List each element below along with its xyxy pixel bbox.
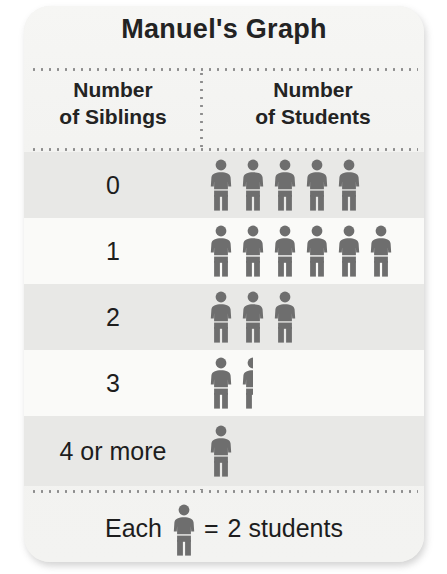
row-label-siblings: 4 or more	[28, 416, 198, 486]
person-icon	[272, 291, 298, 343]
row-symbols	[208, 416, 234, 486]
person-icon	[208, 225, 234, 277]
person-icon	[304, 225, 330, 277]
person-icon	[336, 225, 362, 277]
person-icon	[208, 425, 234, 477]
pictograph-card: Manuel's Graph Number of Siblings Number…	[24, 6, 424, 562]
person-icon	[240, 225, 266, 277]
table-row: 3	[24, 350, 424, 416]
row-label-siblings: 3	[28, 350, 198, 416]
row-label-siblings: 2	[28, 284, 198, 350]
table-row: 1	[24, 218, 424, 284]
column-header-siblings: Number of Siblings	[28, 76, 198, 131]
person-icon	[208, 159, 234, 211]
row-symbols	[208, 284, 298, 350]
person-half-icon	[240, 357, 253, 409]
column-header-students-line2: of Students	[206, 103, 420, 130]
table-row: 0	[24, 152, 424, 218]
divider-above-legend	[30, 490, 418, 493]
row-symbols	[208, 350, 253, 416]
legend-person-icon	[171, 504, 195, 552]
pictograph-rows: 01234 or more	[24, 152, 424, 490]
person-icon	[240, 159, 266, 211]
column-header-students-line1: Number	[206, 76, 420, 103]
person-icon	[336, 159, 362, 211]
legend: Each = 2 students	[24, 496, 424, 560]
person-icon	[272, 225, 298, 277]
person-icon	[240, 291, 266, 343]
row-symbols	[208, 218, 394, 284]
divider-below-headers	[30, 148, 418, 151]
column-header-students: Number of Students	[206, 76, 420, 131]
person-icon	[304, 159, 330, 211]
page-title: Manuel's Graph	[24, 14, 424, 45]
row-label-siblings: 1	[28, 218, 198, 284]
column-header-siblings-line1: Number	[28, 76, 198, 103]
row-label-siblings: 0	[28, 152, 198, 218]
person-icon	[208, 357, 234, 409]
legend-equals: =	[204, 514, 219, 543]
divider-below-title	[30, 68, 418, 71]
table-row: 4 or more	[24, 416, 424, 486]
person-icon	[368, 225, 394, 277]
legend-suffix: 2 students	[228, 514, 343, 543]
row-symbols	[208, 152, 362, 218]
person-icon	[272, 159, 298, 211]
column-header-siblings-line2: of Siblings	[28, 103, 198, 130]
legend-prefix: Each	[105, 514, 162, 543]
person-icon	[208, 291, 234, 343]
table-row: 2	[24, 284, 424, 350]
